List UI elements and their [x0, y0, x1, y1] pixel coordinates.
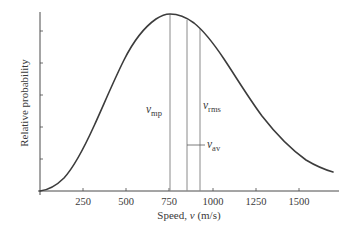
svg-text:vrms: vrms	[203, 99, 221, 114]
maxwell-speed-distribution-chart: 250 500 750 1000 1250 1500 vmp vrms vav …	[0, 0, 349, 234]
x-tick-labels: 250 500 750 1000 1250 1500	[75, 196, 309, 207]
vrms-label: vrms	[203, 99, 221, 114]
vmp-label: vmp	[146, 103, 162, 118]
x-tick-label: 1000	[203, 196, 224, 207]
speed-marker-lines	[170, 14, 205, 191]
x-tick-label: 1500	[289, 196, 310, 207]
x-axis-title: Speed, v (m/s)	[157, 209, 221, 222]
x-tick-label: 250	[75, 196, 91, 207]
x-axis	[38, 188, 339, 191]
svg-text:vav: vav	[207, 138, 221, 153]
y-axis-title: Relative probability	[18, 59, 30, 147]
x-tick-label: 750	[161, 196, 177, 207]
y-axis	[40, 12, 43, 195]
svg-text:vmp: vmp	[146, 103, 162, 118]
x-tick-label: 500	[118, 196, 134, 207]
x-tick-label: 1250	[246, 196, 267, 207]
vav-label: vav	[207, 138, 221, 153]
